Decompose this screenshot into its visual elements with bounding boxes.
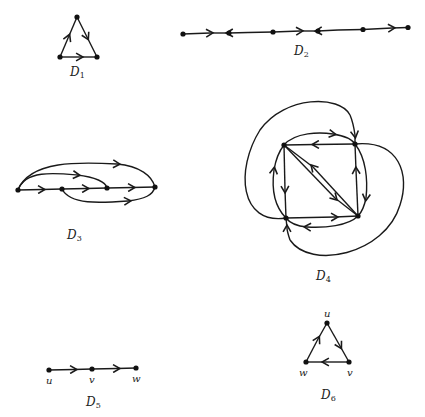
vertex (355, 213, 360, 218)
vertex (281, 142, 286, 147)
vertex-v (346, 359, 351, 364)
vertex-w (133, 365, 138, 370)
vertex-label-w: w (132, 373, 141, 384)
digraph-figure: D1 D2 (0, 0, 425, 417)
label-d6: D6 (320, 388, 336, 403)
digraph-d3: D3 (15, 163, 157, 243)
vertex (360, 27, 365, 32)
vertex (283, 215, 288, 220)
vertex-label-v: v (89, 374, 95, 385)
vertex (152, 184, 157, 189)
label-d5: D5 (85, 395, 101, 410)
vertex (180, 31, 185, 36)
vertex (94, 54, 99, 59)
digraph-d5: u v w D5 (46, 365, 141, 410)
vertex-label-u: u (46, 375, 52, 386)
vertex-u (46, 367, 51, 372)
vertex (315, 28, 320, 33)
vertex (226, 30, 231, 35)
label-d3: D3 (66, 228, 82, 243)
vertex (74, 14, 79, 19)
vertex (59, 186, 64, 191)
digraph-d1: D1 (57, 14, 99, 80)
vertex-w (303, 359, 308, 364)
vertex-label-v: v (347, 367, 353, 378)
vertex-label-u: u (324, 308, 330, 319)
label-d4: D4 (315, 269, 331, 284)
vertex-u (324, 320, 329, 325)
vertex (104, 185, 109, 190)
label-d2: D2 (293, 44, 309, 59)
vertex (270, 29, 275, 34)
vertex (57, 54, 62, 59)
digraph-d2: D2 (180, 25, 410, 59)
vertex-v (89, 366, 94, 371)
digraph-d4: D4 (245, 101, 403, 284)
vertex (15, 187, 20, 192)
label-d1: D1 (69, 65, 85, 80)
vertex (405, 25, 410, 30)
vertex (352, 141, 357, 146)
digraph-d6: u v w D6 (299, 308, 353, 403)
vertex-label-w: w (299, 367, 308, 378)
